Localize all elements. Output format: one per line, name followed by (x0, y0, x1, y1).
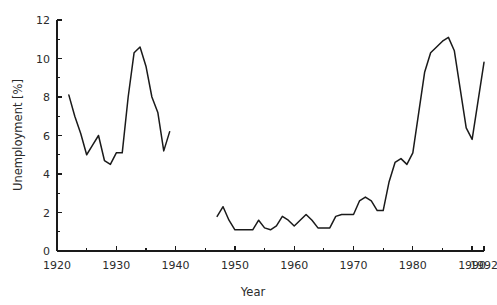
y-tick-label: 4 (43, 168, 50, 181)
data-series-group (69, 37, 484, 229)
y-axis-title: Unemployment [%] (11, 79, 25, 191)
y-tick-label: 0 (43, 245, 50, 258)
x-axis-ticks (57, 246, 484, 251)
x-tick-label: 1920 (43, 259, 71, 272)
x-axis-title: Year (240, 285, 266, 299)
x-tick-label: 1930 (102, 259, 130, 272)
y-tick-label: 2 (43, 207, 50, 220)
x-tick-label: 1950 (221, 259, 249, 272)
axes (57, 20, 484, 251)
x-tick-label: 1980 (399, 259, 427, 272)
data-line-unemployment-pre-war (69, 47, 170, 164)
y-tick-label: 10 (36, 53, 50, 66)
y-tick-label: 12 (36, 14, 50, 27)
y-axis-tick-labels: 024681012 (36, 14, 50, 258)
data-line-unemployment-post-war (217, 37, 484, 229)
x-tick-label: 1970 (340, 259, 368, 272)
y-axis-ticks (57, 20, 62, 251)
y-tick-label: 8 (43, 91, 50, 104)
chart-canvas: 024681012 192019301940195019601970198019… (0, 0, 497, 305)
x-tick-label: 1992 (470, 259, 497, 272)
x-tick-label: 1940 (162, 259, 190, 272)
y-tick-label: 6 (43, 130, 50, 143)
unemployment-line-chart: 024681012 192019301940195019601970198019… (0, 0, 497, 305)
x-tick-label: 1960 (280, 259, 308, 272)
x-axis-tick-labels: 192019301940195019601970198019901992 (43, 259, 497, 272)
